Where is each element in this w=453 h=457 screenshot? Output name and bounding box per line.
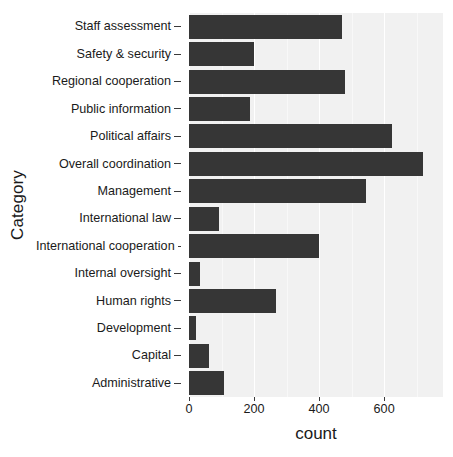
bar: [189, 316, 196, 340]
y-axis-tick-label: Administrative: [92, 377, 171, 390]
bar: [189, 289, 276, 313]
y-axis-tick-label: Safety & security: [77, 48, 172, 61]
x-axis-tick-label: 0: [185, 403, 192, 417]
y-axis-tick-label: Public information: [71, 103, 171, 116]
bar-row: [189, 68, 443, 95]
y-axis-tick-label: Staff assessment: [75, 20, 171, 33]
y-axis-tick-mark: [174, 218, 181, 219]
y-axis-tick: Administrative: [36, 369, 182, 396]
bar: [189, 207, 219, 231]
y-axis-tick: Management: [36, 178, 182, 205]
y-axis-tick-mark: [174, 191, 181, 192]
y-axis-tick-label: Management: [97, 185, 171, 198]
y-axis-tick: Capital: [36, 342, 182, 369]
y-axis-tick-mark: [174, 300, 181, 301]
y-axis-tick-mark: [174, 273, 181, 274]
bar-row: [189, 260, 443, 287]
y-axis-tick: Overall coordination: [36, 150, 182, 177]
y-axis-tick-mark: [174, 81, 181, 82]
y-axis-tick: Staff assessment: [36, 13, 182, 40]
y-axis-tick-labels: Staff assessmentSafety & securityRegiona…: [36, 13, 182, 397]
bar: [189, 97, 250, 121]
x-axis-tick-label: 600: [374, 403, 395, 417]
y-axis-tick-label: Development: [97, 322, 171, 335]
x-axis-tick-label: 200: [244, 403, 265, 417]
y-axis-tick-mark: [174, 54, 181, 55]
bar: [189, 179, 366, 203]
y-axis-tick-mark: [174, 328, 181, 329]
bar-row: [189, 178, 443, 205]
bar: [189, 262, 200, 286]
bar-row: [189, 205, 443, 232]
y-axis-tick-mark: [174, 108, 181, 109]
bar: [189, 15, 342, 39]
x-axis-tick-mark: [319, 397, 320, 401]
y-axis-tick: Safety & security: [36, 40, 182, 67]
bar-row: [189, 40, 443, 67]
bar: [189, 42, 254, 66]
y-axis-title-text: Category: [8, 170, 28, 240]
y-axis-tick-label: International cooperation: [36, 240, 175, 253]
bar: [189, 152, 423, 176]
x-axis-tick-mark: [384, 397, 385, 401]
bars-layer: [189, 13, 443, 397]
y-axis-tick-mark: [178, 246, 181, 247]
bar-row: [189, 13, 443, 40]
bar-row: [189, 150, 443, 177]
bar: [189, 344, 209, 368]
bar-row: [189, 95, 443, 122]
y-axis-tick-mark: [174, 383, 181, 384]
bar: [189, 124, 392, 148]
y-axis-tick: Public information: [36, 95, 182, 122]
x-axis: 0200400600: [189, 397, 443, 423]
bar: [189, 371, 224, 395]
bar-row: [189, 342, 443, 369]
bar-row: [189, 315, 443, 342]
y-axis-tick-label: Political affairs: [90, 130, 171, 143]
y-axis-tick-label: Internal oversight: [74, 267, 171, 280]
y-axis-tick-label: Human rights: [96, 295, 171, 308]
bar-row: [189, 232, 443, 259]
x-axis-tick-mark: [189, 397, 190, 401]
y-axis-tick-label: Regional cooperation: [52, 75, 171, 88]
y-axis-tick: Human rights: [36, 287, 182, 314]
y-axis-tick-mark: [174, 355, 181, 356]
plot-panel: [189, 13, 443, 397]
y-axis-tick: Political affairs: [36, 123, 182, 150]
y-axis-tick: International cooperation: [36, 232, 182, 259]
bar-row: [189, 287, 443, 314]
bar-row: [189, 369, 443, 396]
y-axis-tick-mark: [174, 136, 181, 137]
y-axis-tick: Regional cooperation: [36, 68, 182, 95]
x-axis-tick-label: 400: [309, 403, 330, 417]
bar: [189, 234, 319, 258]
y-axis-title: Category: [0, 0, 36, 410]
x-axis-title: count: [189, 424, 443, 444]
y-axis-tick-label: International law: [79, 212, 171, 225]
y-axis-tick: Internal oversight: [36, 260, 182, 287]
bar-row: [189, 123, 443, 150]
y-axis-tick-label: Overall coordination: [59, 158, 171, 171]
y-axis-tick-label: Capital: [132, 349, 171, 362]
bar-chart: Category Staff assessmentSafety & securi…: [0, 0, 453, 457]
y-axis-tick-mark: [174, 163, 181, 164]
bar: [189, 70, 345, 94]
y-axis-tick: International law: [36, 205, 182, 232]
y-axis-tick: Development: [36, 315, 182, 342]
x-axis-tick-mark: [254, 397, 255, 401]
y-axis-tick-mark: [174, 26, 181, 27]
